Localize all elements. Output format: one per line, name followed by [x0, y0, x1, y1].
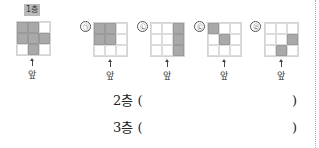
empty-cell — [265, 23, 276, 34]
empty-cell — [230, 23, 241, 34]
answer-2f-label: 2층 ( — [113, 93, 142, 109]
shaded-cell — [219, 34, 230, 45]
empty-cell — [151, 45, 162, 56]
empty-cell — [276, 23, 287, 34]
option-grid — [93, 22, 128, 57]
front-label: 앞 — [271, 69, 291, 82]
empty-cell — [162, 34, 173, 45]
shaded-cell — [28, 44, 39, 55]
empty-cell — [162, 45, 173, 56]
shaded-cell — [94, 34, 105, 45]
empty-cell — [208, 45, 219, 56]
front-arrow-icon — [32, 60, 33, 66]
empty-cell — [151, 23, 162, 34]
shaded-cell — [287, 34, 298, 45]
answer-3f-close: ) — [292, 120, 297, 136]
empty-cell — [105, 45, 116, 56]
front-arrow-icon — [167, 61, 168, 67]
empty-cell — [116, 45, 127, 56]
option-grid — [150, 22, 185, 57]
front-arrow-icon — [110, 61, 111, 67]
shaded-cell — [28, 22, 39, 33]
empty-cell — [287, 45, 298, 56]
dotted-divider — [315, 0, 316, 148]
empty-cell — [265, 34, 276, 45]
empty-cell — [39, 22, 50, 33]
front-arrow-icon — [281, 61, 282, 67]
shaded-cell — [208, 23, 219, 34]
empty-cell — [94, 45, 105, 56]
front-label: 앞 — [100, 69, 120, 82]
answer-2f-field[interactable] — [150, 93, 285, 109]
shaded-cell — [28, 33, 39, 44]
answer-2f-close: ) — [292, 93, 297, 109]
shaded-cell — [17, 22, 28, 33]
option-mark: ㉠ — [80, 21, 91, 32]
option-mark: ㉡ — [137, 21, 148, 32]
option-grid — [264, 22, 299, 57]
empty-cell — [17, 44, 28, 55]
empty-cell — [116, 34, 127, 45]
shaded-cell — [173, 45, 184, 56]
option-mark: ㉢ — [194, 21, 205, 32]
option-grid — [207, 22, 242, 57]
answer-3f-label: 3층 ( — [113, 120, 142, 136]
shaded-cell — [17, 33, 28, 44]
front-arrow-icon — [224, 61, 225, 67]
front-label: 앞 — [157, 69, 177, 82]
shaded-cell — [276, 45, 287, 56]
empty-cell — [162, 23, 173, 34]
shaded-cell — [94, 23, 105, 34]
empty-cell — [219, 45, 230, 56]
shaded-cell — [173, 23, 184, 34]
empty-cell — [230, 34, 241, 45]
shaded-cell — [105, 34, 116, 45]
shaded-cell — [105, 23, 116, 34]
front-label: 앞 — [214, 69, 234, 82]
empty-cell — [230, 45, 241, 56]
option-mark: ㉣ — [250, 21, 261, 32]
shaded-cell — [39, 33, 50, 44]
shaded-cell — [173, 34, 184, 45]
reference-grid — [16, 21, 51, 56]
empty-cell — [219, 23, 230, 34]
empty-cell — [116, 23, 127, 34]
empty-cell — [287, 23, 298, 34]
answer-3f-field[interactable] — [150, 120, 285, 136]
empty-cell — [276, 34, 287, 45]
empty-cell — [39, 44, 50, 55]
empty-cell — [151, 34, 162, 45]
reference-label: 1층 — [24, 4, 40, 16]
front-label: 앞 — [22, 68, 42, 81]
empty-cell — [208, 34, 219, 45]
empty-cell — [265, 45, 276, 56]
